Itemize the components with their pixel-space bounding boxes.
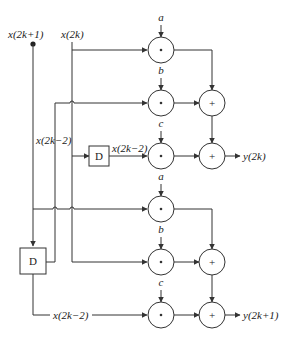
- delayed-label-bottom: x(2k−2): [52, 309, 89, 322]
- wire-mult1-to-adder1: [174, 50, 212, 90]
- output-label-even: y(2k): [242, 150, 266, 163]
- input-label-odd: x(2k+1): [7, 28, 44, 41]
- multiplier-1: [148, 37, 174, 63]
- wire-delay2-to-mult6: [33, 274, 50, 315]
- coef-a-top: a: [158, 11, 164, 23]
- svg-text:+: +: [209, 97, 215, 109]
- delayed-side-label: x(2k−2): [35, 134, 72, 147]
- multiplier-2: [148, 90, 174, 116]
- multiplier-5: [148, 249, 174, 275]
- output-label-odd: y(2k+1): [242, 309, 279, 322]
- multiplier-4: [148, 196, 174, 222]
- filter-diagram: x(2k+1) x(2k) x(2k−2) D x(2k−2) D x(2k−2…: [0, 0, 287, 341]
- svg-text:+: +: [209, 150, 215, 162]
- wire-delay2-up: [46, 101, 147, 262]
- svg-text:+: +: [209, 309, 215, 321]
- adder-3: +: [199, 249, 225, 275]
- multiplier-6: [148, 302, 174, 328]
- svg-text:+: +: [209, 256, 215, 268]
- coef-a-bottom: a: [158, 170, 164, 182]
- wire-odd-to-mult4: [33, 207, 147, 209]
- adder-2: +: [199, 143, 225, 169]
- coef-c-bottom: c: [159, 276, 164, 288]
- wire-mult4-to-adder3: [174, 209, 212, 249]
- input-label-even: x(2k): [60, 28, 84, 41]
- delay-label-bottom: D: [29, 255, 37, 267]
- delay-label-top: D: [95, 150, 103, 162]
- coef-b-top: b: [158, 64, 164, 76]
- adder-4: +: [199, 302, 225, 328]
- adder-1: +: [199, 90, 225, 116]
- coef-b-bottom: b: [158, 223, 164, 235]
- delayed-label-top: x(2k−2): [111, 142, 148, 155]
- multiplier-3: [148, 143, 174, 169]
- coef-c-top: c: [159, 117, 164, 129]
